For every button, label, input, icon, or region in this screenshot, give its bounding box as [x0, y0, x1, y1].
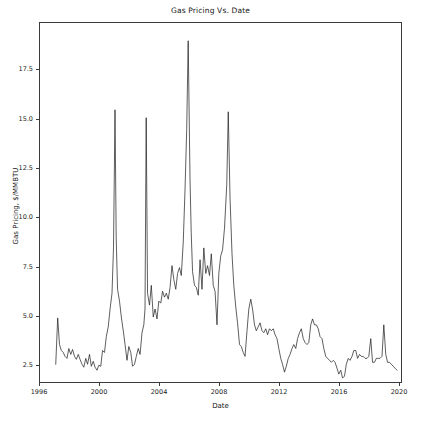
x-tick-label: 1996 [31, 388, 48, 396]
y-tick-label: 12.5 [0, 164, 33, 172]
x-tick-mark [99, 383, 100, 386]
y-tick-label: 2.5 [0, 361, 33, 369]
x-tick-label: 2008 [211, 388, 228, 396]
y-tick-label: 5.0 [0, 312, 33, 320]
x-tick-label: 2016 [331, 388, 348, 396]
y-tick-label: 15.0 [0, 115, 33, 123]
x-tick-mark [219, 383, 220, 386]
x-tick-mark [39, 383, 40, 386]
x-tick-mark [339, 383, 340, 386]
data-line-series [40, 23, 402, 383]
plot-area [39, 22, 402, 383]
y-tick-label: 10.0 [0, 213, 33, 221]
y-tick-label: 17.5 [0, 65, 33, 73]
x-tick-label: 2020 [391, 388, 408, 396]
chart-figure: Gas Pricing Vs. Date Gas Pricing, $/MMBT… [0, 0, 421, 424]
x-axis-label: Date [39, 402, 402, 410]
x-tick-label: 2004 [151, 388, 168, 396]
x-tick-mark [159, 383, 160, 386]
y-tick-label: 7.5 [0, 263, 33, 271]
x-tick-mark [279, 383, 280, 386]
x-tick-label: 2000 [91, 388, 108, 396]
chart-title: Gas Pricing Vs. Date [0, 6, 421, 15]
series-gas-pricing-line [56, 41, 397, 378]
x-tick-mark [399, 383, 400, 386]
x-tick-label: 2012 [271, 388, 288, 396]
